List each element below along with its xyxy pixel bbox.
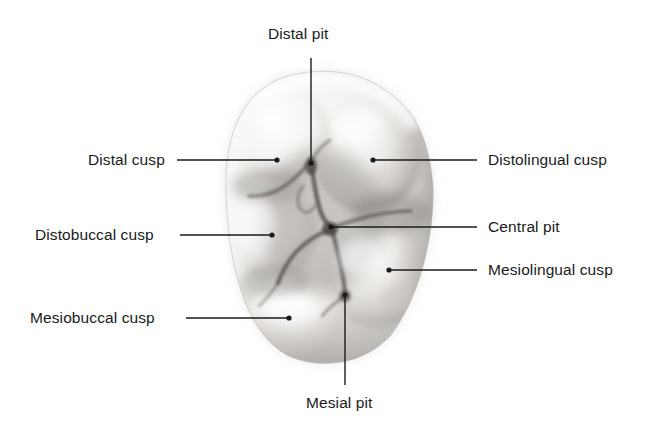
tooth-occlusal-surface	[218, 71, 440, 372]
buccal-groove-shadow-upper	[232, 169, 304, 203]
label-distolingual-cusp: Distolingual cusp	[488, 152, 607, 168]
label-mesiobuccal-cusp: Mesiobuccal cusp	[30, 310, 155, 326]
label-distal-cusp: Distal cusp	[88, 152, 165, 168]
leader-dot-mesiobuccal-cusp	[286, 315, 291, 320]
figure-canvas: Distal pitDistal cuspDistobuccal cuspMes…	[0, 0, 656, 436]
label-mesiolingual-cusp: Mesiolingual cusp	[488, 262, 613, 278]
enamel-highlight-4	[236, 198, 276, 250]
leader-dot-distal-cusp	[274, 157, 279, 162]
leader-dot-distolingual-cusp	[370, 157, 375, 162]
enamel-highlight-3	[266, 294, 318, 326]
leader-dot-distobuccal-cusp	[269, 232, 274, 237]
leader-dot-mesiolingual-cusp	[386, 267, 391, 272]
enamel-highlight-2	[338, 240, 386, 276]
leader-dot-central-pit	[328, 224, 333, 229]
label-central-pit: Central pit	[488, 219, 560, 235]
label-distobuccal-cusp: Distobuccal cusp	[35, 227, 154, 243]
enamel-highlight-1	[330, 106, 382, 142]
enamel-texture-2	[238, 278, 262, 298]
leader-dot-distal-pit	[308, 160, 313, 165]
enamel-texture-1	[382, 288, 414, 312]
leader-dot-mesial-pit	[342, 292, 347, 297]
label-distal-pit: Distal pit	[268, 26, 328, 42]
label-mesial-pit: Mesial pit	[306, 395, 372, 411]
